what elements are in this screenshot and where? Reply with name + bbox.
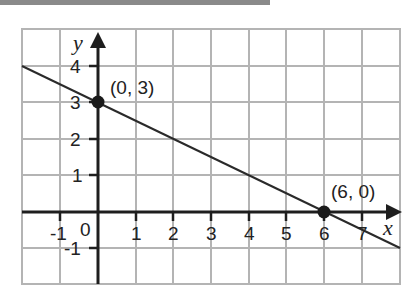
x-tick-4: 4 — [244, 223, 255, 244]
x-tick-3: 3 — [206, 223, 217, 244]
point-0-3 — [92, 96, 105, 109]
x-tick-5: 5 — [281, 223, 292, 244]
x-tick-6: 6 — [319, 223, 330, 244]
y-axis-label: y — [71, 30, 83, 55]
coordinate-plane: y x 4 3 2 1 -1 -1 0 1 2 3 4 5 6 7 (0, 3)… — [0, 0, 417, 295]
y-axis-arrow-icon — [90, 32, 106, 48]
x-tick-7: 7 — [357, 223, 368, 244]
point-6-0 — [318, 206, 331, 219]
y-tick-2: 2 — [70, 129, 81, 150]
x-tick-2: 2 — [168, 223, 179, 244]
x-axis-label: x — [382, 215, 393, 240]
y-tick-1: 1 — [72, 165, 83, 186]
point-label-0-3: (0, 3) — [110, 77, 154, 98]
y-tick-3: 3 — [70, 92, 81, 113]
x-tick-1: 1 — [131, 223, 142, 244]
x-tick-neg1: -1 — [50, 223, 67, 244]
y-tick-4: 4 — [70, 56, 81, 77]
origin-label: 0 — [80, 219, 91, 240]
point-label-6-0: (6, 0) — [331, 181, 375, 202]
